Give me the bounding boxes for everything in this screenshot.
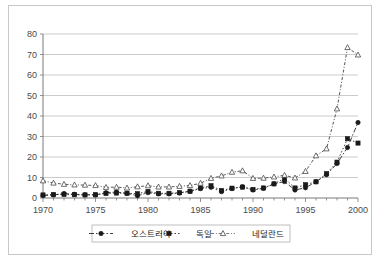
legend-label: 독일 <box>196 229 212 239</box>
data-point-marker <box>261 186 265 190</box>
x-axis-tick-label: 2000 <box>348 205 368 215</box>
data-point-marker <box>104 191 108 195</box>
data-point-marker <box>135 184 140 189</box>
data-point-marker <box>114 184 119 189</box>
x-axis-tick-label: 1985 <box>190 205 210 215</box>
data-point-marker <box>135 192 139 196</box>
gridlines <box>43 34 358 178</box>
data-point-marker <box>156 191 160 195</box>
y-axis-tick-label: 40 <box>27 111 37 121</box>
data-series <box>41 137 360 197</box>
data-point-marker <box>240 185 244 189</box>
data-point-marker <box>324 146 329 151</box>
series-line <box>43 48 358 188</box>
data-point-marker <box>356 141 360 145</box>
data-point-marker <box>356 120 360 124</box>
data-series-layer <box>40 45 360 198</box>
data-point-marker <box>167 191 171 195</box>
data-point-marker <box>272 182 276 186</box>
x-axis-tick-label: 1980 <box>138 205 158 215</box>
data-point-marker <box>313 153 318 158</box>
data-point-marker <box>303 183 307 187</box>
data-point-marker <box>51 192 55 196</box>
data-point-marker <box>72 182 77 187</box>
data-point-marker <box>250 175 255 180</box>
legend-label: 네덜란드 <box>252 229 284 239</box>
data-point-marker <box>251 187 255 191</box>
data-point-marker <box>345 137 349 141</box>
data-point-marker <box>198 186 202 190</box>
x-axis-tick-label: 1975 <box>85 205 105 215</box>
data-point-marker <box>282 172 287 177</box>
data-point-marker <box>240 168 245 173</box>
data-point-marker <box>293 186 297 190</box>
data-point-marker <box>62 192 66 196</box>
data-point-marker <box>334 106 339 111</box>
data-point-marker <box>145 183 150 188</box>
chart-legend: 오스트리아독일네덜란드 <box>89 225 290 242</box>
data-point-marker <box>345 45 350 50</box>
axes <box>40 34 358 202</box>
data-point-marker <box>125 191 129 195</box>
x-axis-tick-label: 1995 <box>295 205 315 215</box>
data-point-marker <box>188 189 192 193</box>
data-point-marker <box>209 184 213 188</box>
data-point-marker <box>83 193 87 197</box>
data-point-marker <box>93 193 97 197</box>
data-point-marker <box>314 180 318 184</box>
data-point-marker <box>335 160 339 164</box>
chart-frame: 01020304050607080 1970197519801985199019… <box>8 5 372 255</box>
data-point-marker <box>61 181 66 186</box>
data-point-marker <box>177 191 181 195</box>
data-point-marker <box>40 178 45 183</box>
data-point-marker <box>166 184 171 189</box>
legend-sample-marker <box>99 231 103 235</box>
y-axis-tick-label: 60 <box>27 70 37 80</box>
data-point-marker <box>229 169 234 174</box>
y-axis-tick-label: 10 <box>27 173 37 183</box>
data-point-marker <box>146 189 150 193</box>
data-point-marker <box>324 172 328 176</box>
x-axis-tick-labels: 1970197519801985199019952000 <box>33 205 368 215</box>
data-point-marker <box>345 145 349 149</box>
y-axis-tick-label: 80 <box>27 29 37 39</box>
y-axis-tick-label: 30 <box>27 132 37 142</box>
data-point-marker <box>230 186 234 190</box>
y-axis-tick-label: 70 <box>27 50 37 60</box>
data-series <box>40 45 360 190</box>
x-axis-tick-label: 1970 <box>33 205 53 215</box>
data-point-marker <box>72 193 76 197</box>
data-point-marker <box>41 193 45 197</box>
x-axis-tick-label: 1990 <box>243 205 263 215</box>
y-axis-tick-label: 0 <box>32 193 37 203</box>
y-axis-tick-label: 20 <box>27 152 37 162</box>
legend-sample-marker <box>167 231 171 235</box>
data-point-marker <box>114 191 118 195</box>
line-chart: 01020304050607080 1970197519801985199019… <box>9 6 373 256</box>
y-axis-tick-labels: 01020304050607080 <box>27 29 37 203</box>
y-axis-tick-label: 50 <box>27 91 37 101</box>
data-point-marker <box>198 180 203 185</box>
data-point-marker <box>303 168 308 173</box>
data-point-marker <box>219 188 223 192</box>
